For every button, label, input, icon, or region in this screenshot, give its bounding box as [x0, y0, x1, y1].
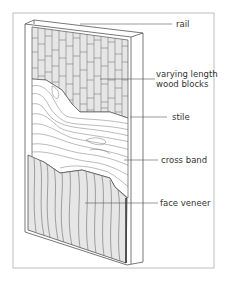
label-rail: rail [176, 19, 189, 29]
label-wood-blocks: varying length wood blocks [156, 69, 206, 89]
label-wood-blocks-line1: varying length [156, 69, 206, 79]
label-wood-blocks-line2: wood blocks [156, 79, 206, 89]
label-stile: stile [172, 112, 190, 122]
label-cross-band: cross band [161, 155, 207, 165]
door-diagram [0, 0, 229, 281]
label-face-veneer: face veneer [160, 198, 210, 208]
